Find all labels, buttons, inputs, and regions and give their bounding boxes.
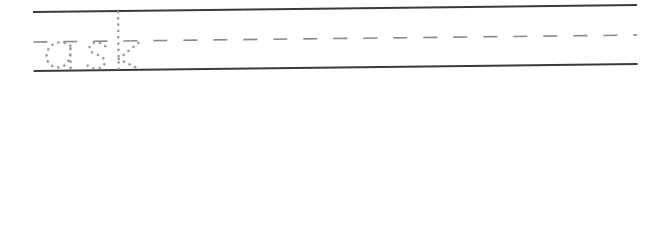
top-line (33, 5, 637, 12)
baseline (34, 64, 638, 71)
midline-dashed (33, 35, 637, 42)
practice-row-1 (33, 5, 638, 71)
handwriting-worksheet (0, 0, 672, 246)
